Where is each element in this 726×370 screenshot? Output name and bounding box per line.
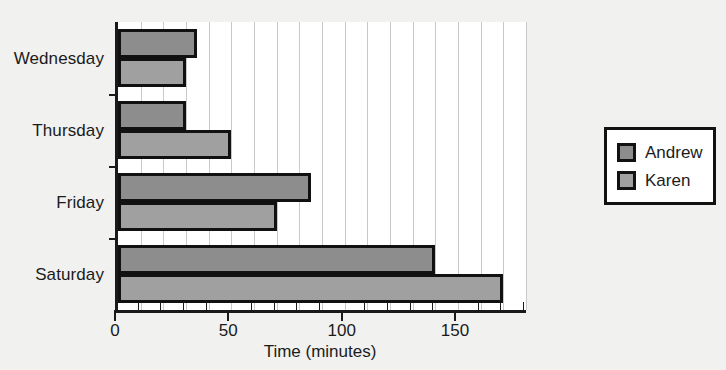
- x-axis-minor-tick: [206, 302, 207, 310]
- bar-chart: WednesdayThursdayFridaySaturday 05010015…: [0, 0, 726, 370]
- plot-area: [115, 22, 526, 313]
- gridline: [526, 22, 527, 310]
- x-axis-minor-tick: [274, 302, 275, 310]
- x-axis-tick: [114, 310, 116, 321]
- bar-friday-karen: [118, 202, 277, 231]
- category-label-wednesday: Wednesday: [0, 50, 104, 67]
- y-axis-tick: [109, 238, 118, 240]
- x-axis-minor-tick: [296, 302, 297, 310]
- category-label-friday: Friday: [0, 194, 104, 211]
- x-axis-minor-tick: [319, 302, 320, 310]
- legend-swatch-andrew: [617, 143, 636, 162]
- x-axis-tick-label: 100: [327, 321, 355, 341]
- legend-swatch-karen: [617, 171, 636, 190]
- x-axis-tick-label: 0: [110, 321, 119, 341]
- x-axis-minor-tick: [387, 302, 388, 310]
- x-axis-tick: [454, 310, 456, 321]
- bar-groups: [118, 22, 526, 310]
- category-label-thursday: Thursday: [0, 122, 104, 139]
- x-axis-tick-label: 50: [219, 321, 238, 341]
- legend: AndrewKaren: [604, 127, 716, 205]
- x-axis-tick: [341, 310, 343, 321]
- x-axis-minor-tick: [364, 302, 365, 310]
- x-axis-minor-tick: [432, 302, 433, 310]
- bar-saturday-andrew: [118, 245, 435, 274]
- bar-wednesday-andrew: [118, 29, 197, 58]
- x-axis-minor-tick: [523, 302, 524, 310]
- y-axis-tick: [109, 94, 118, 96]
- y-axis-tick: [109, 166, 118, 168]
- bar-friday-andrew: [118, 173, 311, 202]
- x-axis-minor-tick: [410, 302, 411, 310]
- bar-thursday-andrew: [118, 101, 186, 130]
- legend-label-andrew: Andrew: [645, 144, 703, 161]
- x-axis-minor-tick: [160, 302, 161, 310]
- x-axis-title: Time (minutes): [115, 342, 525, 362]
- bar-wednesday-karen: [118, 58, 186, 87]
- x-axis-minor-tick: [183, 302, 184, 310]
- bar-saturday-karen: [118, 274, 503, 303]
- bar-thursday-karen: [118, 130, 231, 159]
- x-axis-minor-tick: [500, 302, 501, 310]
- category-label-saturday: Saturday: [0, 266, 104, 283]
- x-axis-tick: [227, 310, 229, 321]
- legend-item-andrew[interactable]: Andrew: [617, 138, 705, 166]
- x-axis-minor-tick: [138, 302, 139, 310]
- x-axis-tick-label: 150: [441, 321, 469, 341]
- legend-label-karen: Karen: [645, 172, 690, 189]
- category-axis-labels: WednesdayThursdayFridaySaturday: [0, 22, 108, 310]
- x-axis-minor-tick: [478, 302, 479, 310]
- legend-item-karen[interactable]: Karen: [617, 166, 705, 194]
- x-axis-minor-tick: [251, 302, 252, 310]
